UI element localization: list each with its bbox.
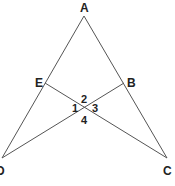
label-E: E [35, 76, 43, 90]
label-D: D [0, 164, 5, 178]
angle-label-4: 4 [81, 114, 88, 126]
segment-AC [84, 16, 167, 158]
angle-label-1: 1 [72, 102, 78, 114]
geometry-diagram: A E B D C 1 2 3 4 [0, 0, 175, 186]
label-B: B [127, 76, 136, 90]
angle-label-2: 2 [81, 93, 87, 105]
label-A: A [80, 1, 89, 15]
label-C: C [163, 164, 172, 178]
angle-label-3: 3 [92, 102, 98, 114]
